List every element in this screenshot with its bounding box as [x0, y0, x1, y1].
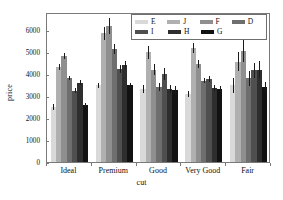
error-bar — [114, 44, 115, 54]
legend-item-I[interactable]: I — [135, 28, 168, 36]
error-bar — [53, 104, 54, 110]
legend-item-H[interactable]: H — [168, 28, 201, 36]
y-tick-label: 0 — [36, 159, 40, 167]
error-bar — [198, 60, 199, 68]
bar-good-G — [172, 90, 177, 162]
legend: EJFDIHG — [131, 14, 267, 40]
error-bar — [75, 88, 76, 94]
legend-item-E[interactable]: E — [135, 18, 167, 26]
x-tick-label: Very Good — [185, 166, 220, 175]
y-tick-mark — [46, 53, 49, 54]
legend-row: IHG — [135, 27, 264, 37]
error-bar — [265, 82, 266, 92]
error-bar — [220, 86, 221, 91]
error-bar — [125, 61, 126, 69]
x-tick-label: Premium — [99, 166, 128, 175]
chart-figure: 0100020003000400050006000 price IdealPre… — [0, 0, 283, 200]
legend-item-D[interactable]: D — [232, 18, 264, 26]
error-bar — [85, 103, 86, 107]
y-tick-mark — [46, 75, 49, 76]
error-bar — [159, 83, 160, 91]
y-tick-label: 5000 — [26, 49, 40, 57]
x-tick-mark — [91, 163, 92, 166]
legend-label-F: F — [216, 18, 220, 26]
error-bar — [109, 18, 110, 34]
error-bar — [214, 85, 215, 91]
legend-swatch-E — [135, 20, 148, 24]
y-tick-mark — [46, 119, 49, 120]
error-bar — [64, 53, 65, 59]
error-bar — [249, 71, 250, 86]
x-axis-label: cut — [0, 178, 283, 187]
legend-label-E: E — [151, 18, 156, 26]
legend-swatch-D — [232, 20, 245, 24]
legend-row: EJFD — [135, 17, 264, 27]
x-tick-label: Good — [149, 166, 167, 175]
error-bar — [238, 52, 239, 71]
legend-label-D: D — [248, 18, 253, 26]
y-tick-mark — [46, 163, 49, 164]
error-bar — [243, 40, 244, 62]
error-bar — [209, 76, 210, 83]
x-tick-mark — [180, 163, 181, 166]
error-bar — [193, 43, 194, 53]
error-bar — [130, 83, 131, 88]
legend-swatch-F — [200, 20, 213, 24]
y-tick-mark — [46, 141, 49, 142]
legend-swatch-I — [135, 30, 148, 34]
error-bar — [204, 78, 205, 84]
error-bar — [98, 83, 99, 88]
legend-item-F[interactable]: F — [200, 18, 232, 26]
legend-item-G[interactable]: G — [201, 28, 234, 36]
error-bar — [254, 63, 255, 78]
y-tick-label: 3000 — [26, 93, 40, 101]
legend-swatch-G — [201, 30, 214, 34]
legend-swatch-H — [168, 30, 181, 34]
x-tick-mark — [136, 163, 137, 166]
bar-premium-G — [127, 85, 132, 162]
error-bar — [170, 85, 171, 94]
legend-label-I: I — [151, 28, 154, 36]
x-tick-label: Ideal — [60, 166, 76, 175]
error-bar — [188, 91, 189, 97]
bar-very-good-G — [217, 89, 222, 162]
error-bar — [104, 27, 105, 40]
bar-ideal-G — [83, 105, 88, 162]
error-bar — [154, 64, 155, 75]
y-tick-label: 2000 — [26, 115, 40, 123]
error-bar — [143, 85, 144, 93]
error-bar — [59, 64, 60, 71]
x-tick-mark — [225, 163, 226, 166]
y-axis-label: price — [5, 63, 14, 123]
error-bar — [148, 46, 149, 59]
bar-fair-G — [262, 87, 267, 162]
y-tick-label: 1000 — [26, 137, 40, 145]
error-bar — [80, 80, 81, 85]
legend-swatch-J — [167, 20, 180, 24]
y-tick-mark — [46, 97, 49, 98]
x-tick-mark — [270, 163, 271, 166]
legend-label-J: J — [183, 18, 186, 26]
error-bar — [233, 78, 234, 93]
x-tick-label: Fair — [241, 166, 254, 175]
error-bar — [69, 76, 70, 81]
y-tick-label: 6000 — [26, 27, 40, 35]
legend-label-H: H — [184, 28, 189, 36]
y-tick-mark — [46, 31, 49, 32]
error-bar — [164, 68, 165, 79]
error-bar — [175, 86, 176, 94]
error-bar — [259, 61, 260, 78]
legend-item-J[interactable]: J — [167, 18, 199, 26]
error-bar — [120, 65, 121, 73]
legend-label-G: G — [217, 28, 222, 36]
y-tick-label: 4000 — [26, 71, 40, 79]
